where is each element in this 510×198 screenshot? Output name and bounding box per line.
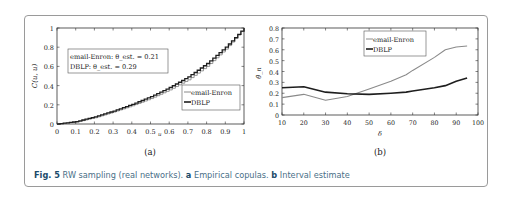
caption-b-label: b: [271, 170, 277, 180]
y-tick-label: 0.2: [269, 90, 279, 97]
y-tick-label: 0.5: [269, 58, 279, 65]
x-tick-label: 0.3: [108, 128, 118, 136]
figure-caption: Fig. 5 RW sampling (real networks). a Em…: [34, 170, 350, 180]
x-tick-label: 10: [278, 119, 286, 126]
legend-a: email-EnronDBLP: [182, 85, 240, 110]
legend-entry: DBLP: [191, 99, 211, 107]
x-tick-label: 20: [300, 119, 308, 126]
x-tick-label: 40: [343, 119, 351, 126]
caption-text: RW sampling (real networks).: [63, 170, 184, 180]
chart-b-interval-estimate: 10203040506070809010000.10.20.30.40.50.6…: [255, 25, 484, 157]
y-tick-label: 0.7: [269, 36, 279, 43]
legend-entry: DBLP: [373, 46, 393, 54]
y-tick-label: 1: [50, 25, 54, 33]
x-tick-label: 0: [55, 128, 59, 136]
caption-a-text: Empirical copulas.: [194, 170, 269, 180]
annotation-line-2: DBLP: θ_est. = 0.29: [70, 63, 137, 71]
x-tick-label: 0.7: [183, 128, 193, 136]
panel-label-b: (b): [374, 147, 386, 157]
legend-entry: email-Enron: [191, 89, 233, 97]
y-tick-label: 0: [50, 121, 54, 129]
legend-b: email-EnronDBLP: [364, 31, 426, 56]
y-tick-label: 0: [275, 112, 279, 119]
x-tick-label: 60: [387, 119, 395, 126]
x-tick-label: 80: [430, 119, 438, 126]
y-tick-label: 0.1: [269, 101, 279, 108]
theta-annotation: email-Enron: θ_est. = 0.21DBLP: θ_est. =…: [68, 49, 168, 73]
figure-canvas: 00.10.20.30.40.50.60.70.80.9100.20.40.60…: [0, 0, 510, 198]
caption-b-text: Interval estimate: [280, 170, 350, 180]
x-tick-label: 30: [322, 119, 330, 126]
x-tick-label: 0.6: [164, 128, 174, 136]
panel-label-a: (a): [144, 147, 156, 157]
y-tick-label: 0.2: [44, 102, 54, 110]
caption-fig-label: Fig. 5: [34, 170, 60, 180]
x-tick-label: 0.5: [145, 128, 155, 136]
x-tick-label: 90: [452, 119, 460, 126]
y-tick-label: 0.8: [44, 44, 54, 52]
y-tick-label: 0.4: [44, 83, 54, 91]
y-tick-label: 0.6: [269, 47, 279, 54]
x-tick-label: 0.1: [71, 128, 81, 136]
x-tick-label: 1: [242, 128, 246, 136]
y-axis-label: C(u, u): [31, 64, 39, 89]
x-tick-label: 0.4: [127, 128, 137, 136]
x-tick-label: 100: [472, 119, 484, 126]
caption-a-label: a: [186, 170, 192, 180]
y-tick-label: 0.4: [269, 69, 279, 76]
x-tick-label: 0.8: [201, 128, 211, 136]
x-tick-label: 0.9: [220, 128, 230, 136]
legend-entry: email-Enron: [373, 36, 415, 44]
y-tick-label: 0.3: [269, 79, 279, 86]
annotation-line-1: email-Enron: θ_est. = 0.21: [70, 53, 159, 61]
y-tick-label: 0.8: [269, 25, 279, 32]
y-axis-label: θ̂_n: [255, 67, 263, 78]
chart-a-empirical-copulas: 00.10.20.30.40.50.60.70.80.9100.20.40.60…: [31, 25, 246, 157]
y-tick-label: 0.6: [44, 63, 54, 71]
x-axis-label: δ: [378, 130, 382, 138]
x-tick-label: 50: [365, 119, 373, 126]
x-tick-label: 70: [409, 119, 417, 126]
x-tick-label: 0.2: [89, 128, 99, 136]
x-axis-label: u: [158, 131, 162, 137]
